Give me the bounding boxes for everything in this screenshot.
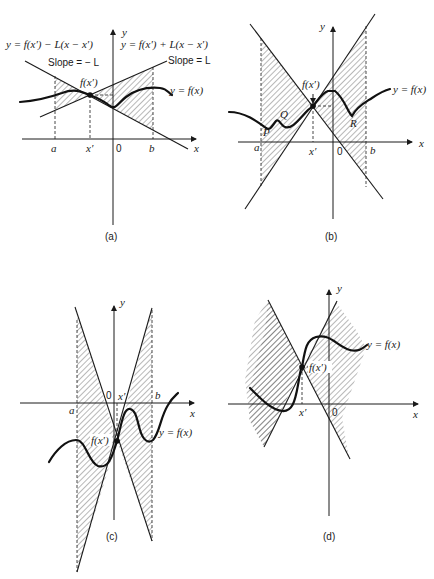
x-axis-label: x — [193, 142, 199, 154]
slope-pos-label: Slope = L — [168, 55, 211, 66]
point-xprime — [299, 364, 305, 370]
point-label: f(x′) — [309, 361, 327, 374]
tick-xprime: x′ — [308, 145, 317, 157]
region-label-r: R — [349, 117, 357, 129]
caption-b: (b) — [325, 231, 337, 242]
curve-label: y = f(x) — [392, 83, 426, 96]
region-label-q: Q — [280, 108, 288, 120]
tick-a: a — [51, 142, 57, 154]
hatch-region-right — [302, 302, 366, 458]
tick-a: a — [254, 141, 260, 153]
hatch-region-left-fill — [245, 300, 302, 447]
caption-d: (d) — [323, 531, 335, 542]
tick-xprime: x′ — [298, 406, 307, 418]
caption-c: (c) — [106, 531, 118, 542]
point-xprime — [310, 103, 316, 109]
tick-origin: 0 — [337, 146, 343, 157]
tick-origin: 0 — [332, 407, 338, 418]
region-label-p: P — [262, 126, 270, 138]
curve-label: y = f(x) — [366, 338, 400, 351]
panel-d: y x x′ 0 f(x′) y = f(x) (d) — [228, 282, 418, 542]
x-axis-label: x — [418, 137, 424, 149]
equation-lower-line: y = f(x′) − L(x − x′) — [5, 38, 93, 51]
panel-a: y x a x′ 0 b y = f(x′) − L(x − x′) y = f… — [5, 26, 211, 242]
hatch-region-right — [90, 62, 185, 148]
x-axis-label: x — [412, 408, 418, 420]
hatch-region-right — [313, 15, 382, 198]
lipschitz-figure: y x a x′ 0 b y = f(x′) − L(x − x′) y = f… — [0, 0, 434, 579]
point-label: f(x′) — [80, 76, 98, 89]
point-label: f(x′) — [302, 78, 320, 91]
equation-upper-line: y = f(x′) + L(x − x′) — [120, 38, 208, 51]
tick-origin: 0 — [116, 143, 122, 154]
tick-xprime: x′ — [85, 142, 94, 154]
point-xprime — [114, 438, 120, 444]
tick-b: b — [149, 142, 155, 154]
curve-label: y = f(x) — [158, 426, 192, 439]
y-axis-label: y — [119, 296, 125, 308]
y-axis-label: y — [121, 26, 127, 38]
x-axis-label: x — [189, 407, 195, 419]
y-axis-label: y — [336, 282, 342, 294]
tick-xprime: x′ — [117, 390, 126, 402]
panel-c: y x a x′ 0 b f(x′) y = f(x) (c) — [20, 296, 195, 572]
tick-b: b — [370, 144, 376, 156]
point-label: f(x′) — [91, 434, 109, 447]
point-xprime — [87, 92, 93, 98]
slope-neg-label: Slope = − L — [48, 57, 100, 68]
caption-a: (a) — [105, 231, 117, 242]
curve-label: y = f(x) — [169, 84, 203, 97]
line-slope-neg — [25, 61, 188, 149]
tick-a: a — [69, 404, 75, 416]
tick-b: b — [155, 389, 161, 401]
panel-b: y x a x′ 0 b f(x′) y = f(x) P Q R (b) — [229, 14, 426, 242]
y-axis-label: y — [319, 20, 325, 32]
tick-origin: 0 — [106, 390, 112, 401]
